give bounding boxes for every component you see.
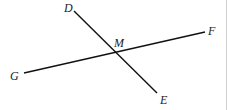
right-border-divider [226, 0, 227, 110]
label-m: M [113, 36, 125, 50]
label-g: G [10, 69, 19, 83]
label-f: F [207, 24, 216, 38]
geometry-diagram: D M F G E [0, 0, 230, 110]
label-e: E [159, 93, 168, 107]
label-d: D [63, 1, 73, 15]
